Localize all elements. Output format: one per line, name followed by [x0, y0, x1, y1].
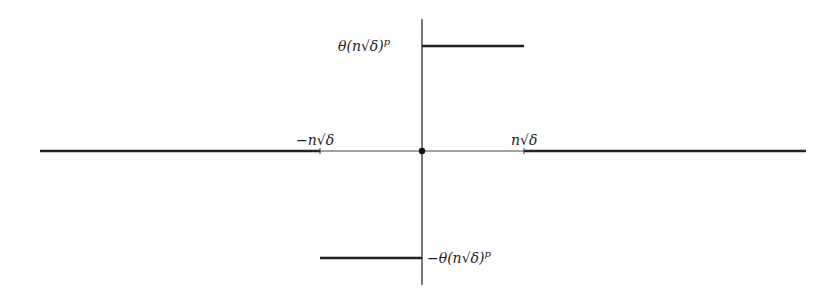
step-function-diagram: θ(n√δ)p −θ(n√δ)p −n√δ n√δ — [0, 0, 838, 298]
pos-tick-label: n√δ — [511, 132, 537, 148]
origin-point — [419, 148, 425, 154]
upper-value-label: θ(n√δ)p — [338, 36, 391, 54]
lower-value-label: −θ(n√δ)p — [427, 248, 491, 266]
neg-tick-label: −n√δ — [296, 132, 334, 148]
